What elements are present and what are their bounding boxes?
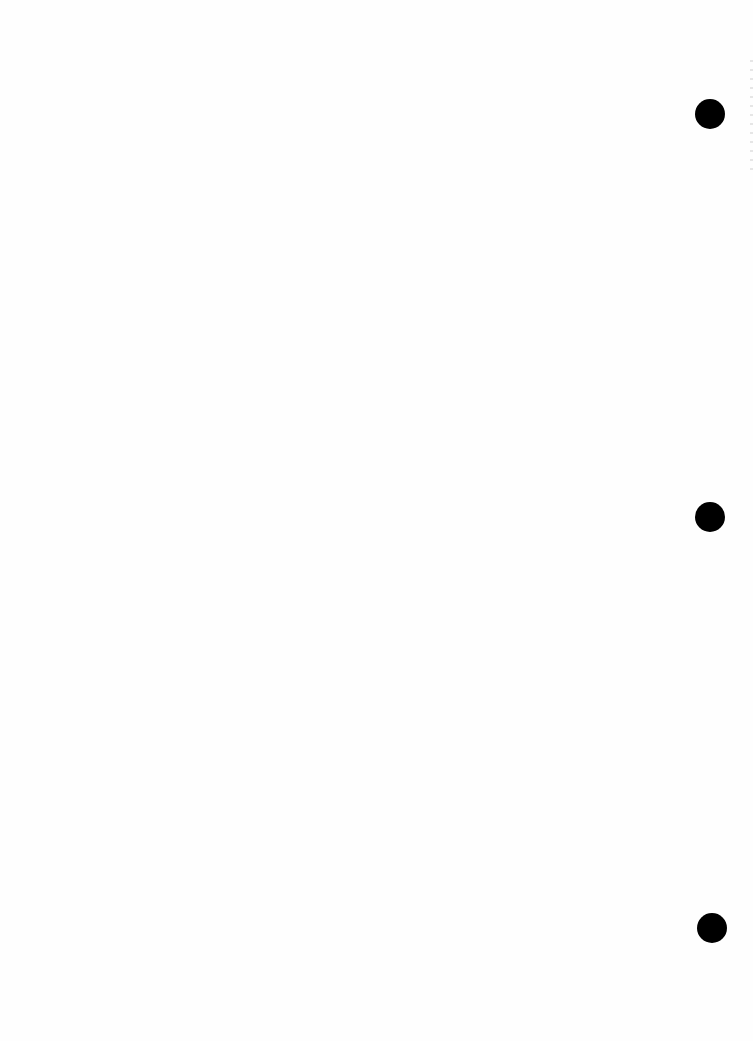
blank-page — [0, 0, 753, 1041]
punch-hole-top — [695, 99, 725, 129]
punch-hole-bottom — [697, 913, 727, 943]
punch-hole-middle — [695, 502, 725, 532]
